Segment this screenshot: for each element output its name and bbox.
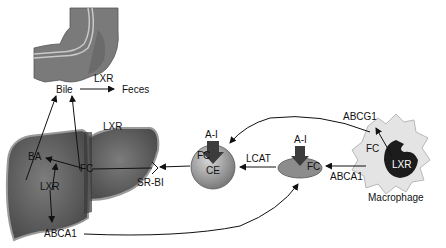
bile-label: Bile: [56, 85, 73, 95]
abca1-liver-label: ABCA1: [44, 229, 77, 239]
fc-nascent-label: FC: [307, 162, 320, 172]
fc-mature-label: FC: [197, 151, 210, 161]
diagram-canvas: [0, 0, 446, 248]
fc-liver-label: FC: [80, 164, 93, 174]
apoa1-mature-label: A-I: [205, 130, 218, 140]
ba-label: BA: [28, 152, 41, 162]
macrophage-label: Macrophage: [368, 193, 424, 203]
fc-macrophage-label: FC: [366, 144, 379, 154]
reverse-cholesterol-transport-diagram: LXR Bile Feces LXR BA FC LXR SR-BI ABCA1…: [0, 0, 446, 248]
sr-bi-label: SR-BI: [137, 178, 164, 188]
lxr-intestine-label: LXR: [94, 74, 113, 84]
abca1-macrophage-label: ABCA1: [330, 172, 363, 182]
abcg1-label: ABCG1: [343, 112, 377, 122]
liver-icon: [7, 128, 158, 240]
ce-mature-label: CE: [206, 166, 220, 176]
lcat-label: LCAT: [246, 154, 271, 164]
lxr-liver-label: LXR: [40, 182, 59, 192]
intestine-icon: [34, 8, 118, 82]
feces-label: Feces: [122, 85, 149, 95]
apoa1-nascent-label: A-I: [294, 135, 307, 145]
lxr-liver-top-label: LXR: [103, 122, 122, 132]
lxr-macrophage-label: LXR: [392, 160, 411, 170]
